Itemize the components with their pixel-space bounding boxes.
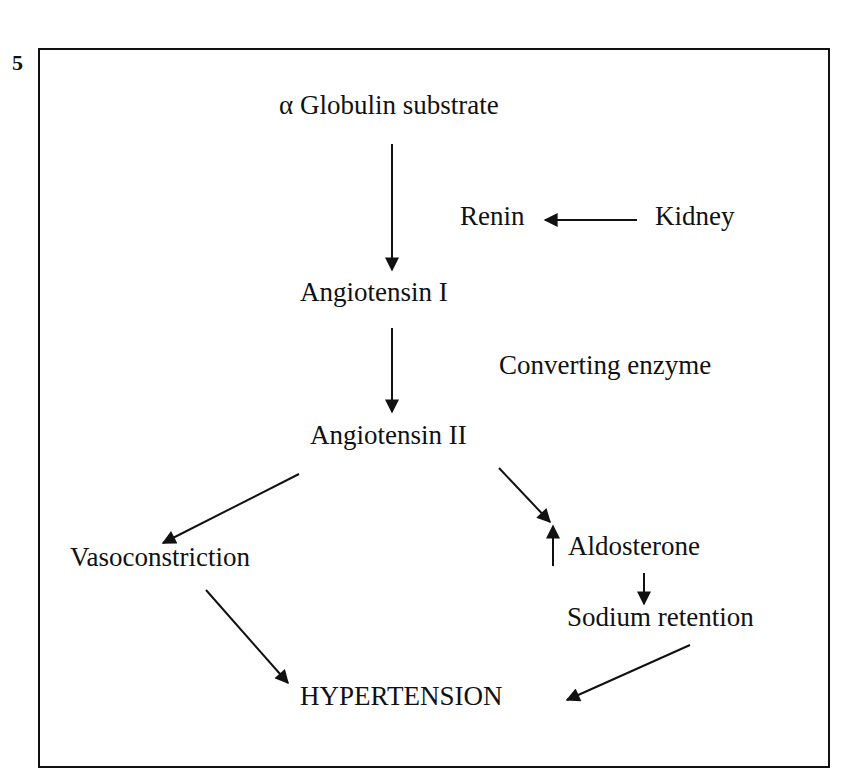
node-sodium-retention: Sodium retention [567,604,754,631]
node-angiotensin-2: Angiotensin II [310,422,467,449]
node-vasoconstriction: Vasoconstriction [70,544,250,571]
node-globulin-substrate: α Globulin substrate [279,92,499,119]
node-angiotensin-1: Angiotensin I [300,279,448,306]
arrow-angiotensin-2-to-aldosterone [499,468,550,522]
arrow-sodium-retention-to-hypertension [567,645,690,700]
arrow-vasoconstriction-to-hypertension [206,590,288,683]
node-hypertension: HYPERTENSION [300,683,502,710]
node-renin: Renin [460,203,525,230]
node-converting-enzyme: Converting enzyme [499,352,711,379]
arrow-angiotensin-2-to-vasoconstriction [163,474,299,543]
node-aldosterone: Aldosterone [568,533,700,560]
node-kidney: Kidney [655,203,734,230]
